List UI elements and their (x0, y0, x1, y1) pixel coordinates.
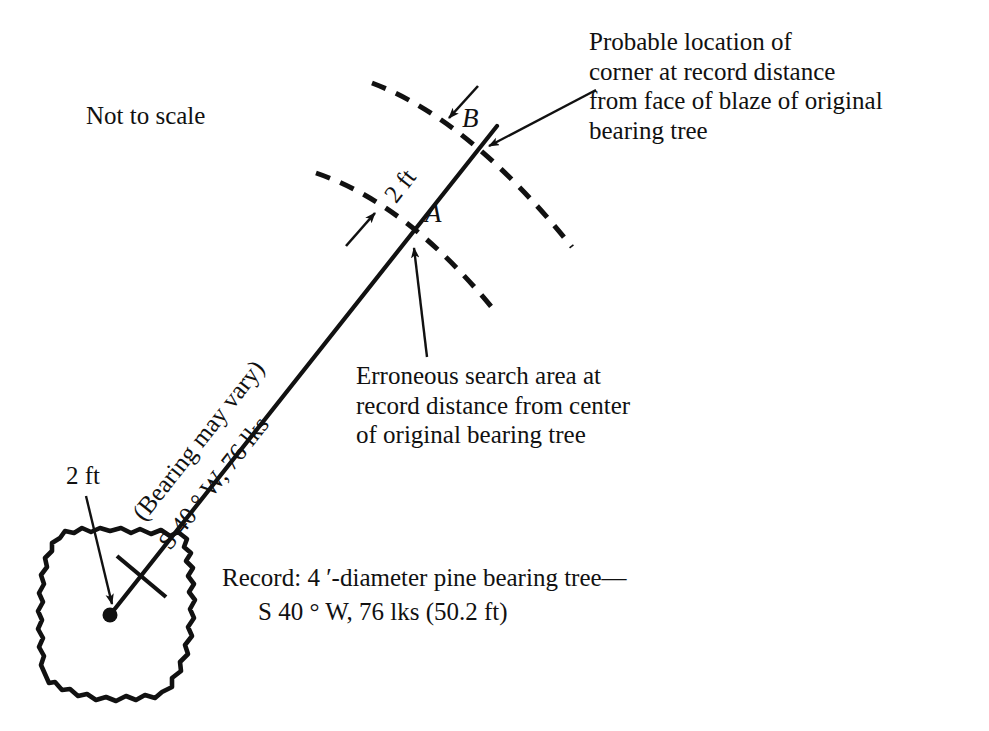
record-text-line-1: Record: 4 ′-diameter pine bearing tree— (222, 563, 627, 593)
leader-tree-radius (86, 496, 112, 604)
tree-radius-label: 2 ft (66, 461, 100, 491)
tree-center-dot (103, 608, 118, 623)
blaze-tick (117, 556, 166, 597)
point-label-b: B (462, 103, 479, 135)
annotation-probable-location: Probable location of corner at record di… (589, 27, 883, 145)
figure-canvas: Not to scale Probable location of corner… (0, 0, 989, 731)
page-edge-sliver (620, 0, 950, 2)
annotation-erroneous-area: Erroneous search area at record distance… (356, 361, 630, 450)
record-text-line-2: S 40 ° W, 76 lks (50.2 ft) (258, 597, 508, 627)
arrow-to-arc-a (346, 213, 375, 246)
point-label-a: A (425, 198, 442, 230)
leader-probable-corner (489, 90, 596, 146)
scale-note: Not to scale (86, 101, 205, 131)
leader-erroneous-search (414, 248, 427, 357)
